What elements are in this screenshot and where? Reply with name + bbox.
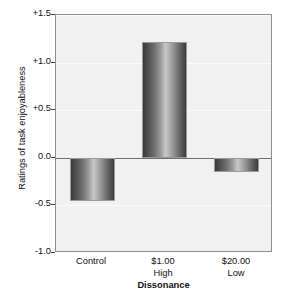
y-axis-tick-labels: +1.5 +1.0 +0.5 0.0 -0.5 -1.0 bbox=[13, 0, 51, 305]
x-tick-label-primary: $1.00 bbox=[151, 256, 174, 266]
bar bbox=[70, 158, 115, 201]
y-tick-label: -0.5 bbox=[17, 198, 51, 208]
y-tick-label: -1.0 bbox=[17, 246, 51, 256]
x-tick-label-secondary: Low bbox=[200, 268, 272, 280]
x-tick-label: Control bbox=[55, 256, 127, 268]
x-tick-label: $1.00High bbox=[127, 256, 199, 279]
plot-area bbox=[55, 14, 272, 252]
x-tick-label-secondary: High bbox=[127, 268, 199, 280]
y-tick-label: +1.5 bbox=[17, 8, 51, 18]
y-tick-label: 0.0 bbox=[17, 151, 51, 161]
x-tick-label-primary: $20.00 bbox=[222, 256, 250, 266]
y-tick-mark bbox=[51, 252, 55, 253]
bar-chart-figure: Ratings of task enjoyableness +1.5 +1.0 … bbox=[0, 0, 287, 305]
bar bbox=[142, 42, 187, 158]
bar bbox=[214, 158, 259, 172]
x-tick-label-primary: Control bbox=[76, 256, 106, 266]
gridline bbox=[56, 15, 271, 16]
y-tick-label: +0.5 bbox=[17, 103, 51, 113]
gridline bbox=[56, 205, 271, 206]
x-axis-title: Dissonance bbox=[55, 280, 272, 290]
x-tick-label: $20.00Low bbox=[200, 256, 272, 279]
y-tick-label: +1.0 bbox=[17, 56, 51, 66]
